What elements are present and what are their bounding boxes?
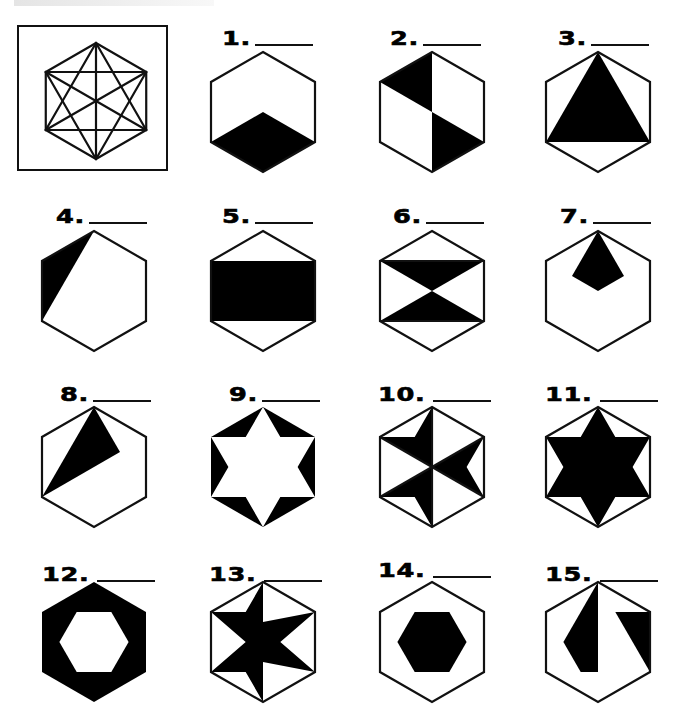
- shaded-region: [380, 467, 432, 527]
- item-label: 4.: [56, 202, 147, 226]
- item-label: 12.: [42, 560, 155, 584]
- item-label: 14.: [378, 556, 491, 580]
- answer-blank[interactable]: [97, 580, 155, 582]
- answer-blank[interactable]: [591, 44, 649, 46]
- hexagon-figure: [24, 221, 164, 361]
- item-label: 8.: [60, 380, 151, 404]
- shaded-region: [432, 437, 484, 497]
- shaded-region: [380, 52, 432, 112]
- answer-blank[interactable]: [255, 44, 313, 46]
- hexagon-figure: [362, 42, 502, 182]
- shaded-region: [432, 112, 484, 172]
- item-number: 2.: [390, 29, 419, 48]
- item-number: 9.: [229, 385, 258, 404]
- item-label: 3.: [558, 24, 649, 48]
- hexagon-figure: [362, 221, 502, 361]
- shaded-region: [211, 261, 315, 321]
- hexagon-figure: [528, 397, 668, 537]
- item-number: 15.: [545, 565, 592, 584]
- hexagon-figure: [362, 397, 502, 537]
- hexagon-figure: [362, 572, 502, 708]
- item-number: 10.: [378, 385, 425, 404]
- shaded-region: [615, 612, 650, 672]
- shaded-region: [211, 582, 315, 702]
- shaded-region: [42, 407, 120, 497]
- item-label: 9.: [229, 380, 320, 404]
- answer-blank[interactable]: [423, 44, 481, 46]
- item-label: 11.: [545, 380, 658, 404]
- hexagon-figure: [24, 397, 164, 537]
- item-label: 5.: [222, 202, 313, 226]
- shaded-region: [42, 231, 94, 321]
- item-label: 13.: [209, 560, 322, 584]
- item-number: 6.: [393, 207, 422, 226]
- shaded-region: [546, 407, 650, 527]
- item-label: 10.: [378, 380, 491, 404]
- item-number: 13.: [209, 565, 256, 584]
- reference-figure-box: [17, 25, 168, 171]
- answer-blank[interactable]: [262, 400, 320, 402]
- answer-blank[interactable]: [433, 400, 491, 402]
- shaded-region: [380, 291, 484, 321]
- cropped-header-text: [14, 0, 214, 6]
- item-label: 2.: [390, 24, 481, 48]
- item-number: 1.: [222, 29, 251, 48]
- hexagon-figure: [528, 572, 668, 708]
- hexagon-figure: [528, 221, 668, 361]
- item-number: 3.: [558, 29, 587, 48]
- shaded-region: [380, 407, 432, 467]
- hexagon-figure: [193, 397, 333, 537]
- item-label: 7.: [560, 202, 651, 226]
- item-label: 1.: [222, 24, 313, 48]
- item-number: 14.: [378, 561, 425, 580]
- hexagon-figure: [193, 42, 333, 182]
- hexagon-figure: [193, 221, 333, 361]
- hexagon-figure: [193, 572, 333, 708]
- answer-blank[interactable]: [93, 400, 151, 402]
- reference-hexagon-diagram: [19, 27, 170, 173]
- hexagon-figure: [528, 42, 668, 182]
- item-number: 4.: [56, 207, 85, 226]
- answer-blank[interactable]: [264, 580, 322, 582]
- shaded-region: [211, 112, 315, 172]
- answer-blank[interactable]: [593, 222, 651, 224]
- shaded-region: [572, 231, 624, 291]
- item-number: 8.: [60, 385, 89, 404]
- shaded-region: [546, 52, 650, 142]
- answer-blank[interactable]: [600, 580, 658, 582]
- shaded-region: [563, 582, 598, 672]
- item-number: 7.: [560, 207, 589, 226]
- hexagon-figure: [24, 572, 164, 708]
- item-label: 6.: [393, 202, 484, 226]
- answer-blank[interactable]: [255, 222, 313, 224]
- answer-blank[interactable]: [600, 400, 658, 402]
- answer-blank[interactable]: [89, 222, 147, 224]
- item-number: 5.: [222, 207, 251, 226]
- answer-blank[interactable]: [426, 222, 484, 224]
- answer-blank[interactable]: [433, 576, 491, 578]
- shaded-region: [380, 261, 484, 291]
- item-label: 15.: [545, 560, 658, 584]
- item-number: 12.: [42, 565, 89, 584]
- shaded-region: [397, 612, 466, 672]
- item-number: 11.: [545, 385, 592, 404]
